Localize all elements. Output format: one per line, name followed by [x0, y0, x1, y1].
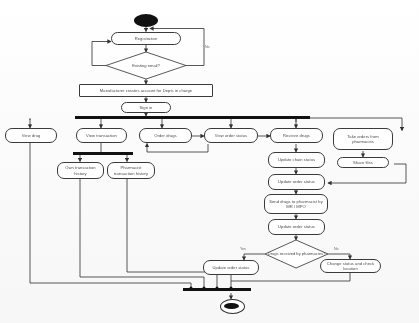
- fork-bar-main: [75, 116, 310, 119]
- activity-diagram-canvas: Registration Existing email? No Manufact…: [0, 0, 419, 323]
- final-node: [220, 299, 245, 314]
- edge-label-yes-drugs-received: Yes: [240, 247, 246, 251]
- activity-order-drugs[interactable]: Order drugs: [139, 128, 192, 143]
- edge-label-no-registration: No: [205, 45, 210, 49]
- decision-existing-email[interactable]: Existing email?: [106, 52, 186, 79]
- join-bar-final: [183, 288, 251, 291]
- activity-update-order-status-3[interactable]: Update order status: [203, 260, 259, 275]
- activity-send-drugs-to-pharmacist[interactable]: Send drugs to pharmacist by MR / MPO: [264, 194, 328, 214]
- activity-take-orders-from-pharmacies[interactable]: Take orders from pharmacies: [333, 128, 393, 150]
- activity-registration[interactable]: Registration: [111, 32, 181, 45]
- edge-label-no-drugs-received: No: [334, 247, 339, 251]
- decision-drugs-received[interactable]: Drugs received by pharmacies?: [265, 240, 328, 268]
- activity-recieve-drugs[interactable]: Recieve drugs: [270, 128, 323, 143]
- activity-share-files[interactable]: Share files: [337, 157, 389, 168]
- activity-manufacturer-creates-account[interactable]: Manufacturer creates account for Depts i…: [79, 84, 213, 97]
- activity-update-order-status-1[interactable]: Update order status: [268, 174, 325, 190]
- final-node-inner: [224, 303, 239, 310]
- initial-node: [134, 14, 158, 27]
- activity-view-transaction[interactable]: View transaction: [76, 128, 127, 143]
- activity-view-drug[interactable]: View drug: [5, 128, 57, 143]
- activity-sign-in[interactable]: Sign in: [121, 102, 171, 113]
- activity-own-transaction-history[interactable]: Own transaction history: [57, 162, 104, 179]
- activity-change-status-check-location[interactable]: Change status and check location: [320, 259, 381, 273]
- activity-update-order-status-2[interactable]: Update order status: [268, 219, 325, 235]
- decision-existing-email-label: Existing email?: [106, 52, 186, 79]
- activity-view-order-status[interactable]: View order status: [204, 128, 258, 143]
- activity-update-chain-status[interactable]: Update chain status: [268, 152, 325, 168]
- decision-drugs-received-label: Drugs received by pharmacies?: [265, 240, 328, 268]
- fork-bar-transaction: [73, 152, 133, 155]
- activity-pharmacist-transaction-history[interactable]: Pharmacist transaction history: [107, 162, 155, 179]
